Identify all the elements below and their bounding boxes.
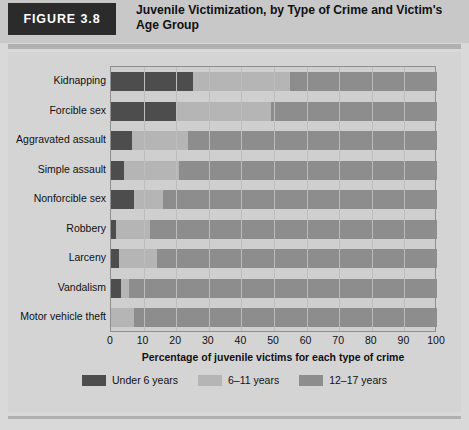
footer-divider bbox=[8, 416, 461, 419]
chart-legend: Under 6 years6–11 years12–17 years bbox=[8, 374, 461, 386]
legend-label: 6–11 years bbox=[228, 374, 279, 386]
gridline bbox=[274, 67, 275, 331]
bar-segment bbox=[134, 190, 163, 209]
gridline bbox=[307, 67, 308, 331]
y-axis-label: Larceny bbox=[10, 243, 106, 273]
legend-swatch bbox=[198, 375, 222, 386]
bar-segment bbox=[290, 72, 437, 91]
legend-label: 12–17 years bbox=[329, 374, 387, 386]
x-axis-tick-label: 10 bbox=[137, 334, 149, 346]
legend-label: Under 6 years bbox=[112, 374, 178, 386]
gridline bbox=[176, 67, 177, 331]
bar-segment bbox=[150, 220, 437, 239]
y-axis-label: Forcible sex bbox=[10, 96, 106, 126]
bar-segment bbox=[157, 249, 437, 268]
x-axis-tick-label: 70 bbox=[332, 334, 344, 346]
header-divider bbox=[8, 44, 461, 49]
y-axis-labels: KidnappingForcible sexAggravated assault… bbox=[8, 66, 106, 332]
y-axis-label: Nonforcible sex bbox=[10, 184, 106, 214]
bar-segment bbox=[129, 279, 437, 298]
y-axis-label: Robbery bbox=[10, 214, 106, 244]
legend-swatch bbox=[299, 375, 323, 386]
legend-item: 12–17 years bbox=[299, 374, 387, 386]
gridline bbox=[241, 67, 242, 331]
gridline bbox=[144, 67, 145, 331]
x-axis-tick-label: 50 bbox=[267, 334, 279, 346]
y-axis-label: Kidnapping bbox=[10, 66, 106, 96]
bar-segment bbox=[119, 249, 156, 268]
gridline bbox=[404, 67, 405, 331]
bar-segment bbox=[111, 72, 193, 91]
bar-segment bbox=[176, 102, 271, 121]
x-axis-tick-label: 80 bbox=[365, 334, 377, 346]
legend-item: Under 6 years bbox=[82, 374, 178, 386]
plot-area bbox=[110, 66, 436, 332]
x-axis-tick-label: 40 bbox=[235, 334, 247, 346]
bar-segment bbox=[111, 249, 119, 268]
bar-segment bbox=[132, 131, 187, 150]
x-axis-title: Percentage of juvenile victims for each … bbox=[110, 351, 436, 363]
bar-segment bbox=[111, 190, 134, 209]
x-axis-tick-label: 100 bbox=[427, 334, 445, 346]
bar-segment bbox=[116, 220, 150, 239]
figure-header: FIGURE 3.8 Juvenile Victimization, by Ty… bbox=[0, 0, 469, 43]
x-axis-ticks: 0102030405060708090100 bbox=[110, 334, 436, 350]
gridline bbox=[339, 67, 340, 331]
legend-swatch bbox=[82, 375, 106, 386]
bar-segment bbox=[121, 279, 129, 298]
y-axis-label: Simple assault bbox=[10, 155, 106, 185]
x-axis-tick-label: 20 bbox=[169, 334, 181, 346]
gridline bbox=[372, 67, 373, 331]
bar-segment bbox=[134, 308, 437, 327]
chart-container: KidnappingForcible sexAggravated assault… bbox=[8, 52, 461, 412]
bar-segment bbox=[188, 131, 437, 150]
bar-segment bbox=[111, 279, 121, 298]
bar-segment bbox=[271, 102, 437, 121]
bar-segment bbox=[111, 131, 132, 150]
bar-segment bbox=[179, 161, 437, 180]
bar-segment bbox=[163, 190, 437, 209]
bar-segment bbox=[111, 308, 134, 327]
figure-number-badge: FIGURE 3.8 bbox=[8, 3, 116, 35]
bar-segment bbox=[124, 161, 179, 180]
x-axis-tick-label: 30 bbox=[202, 334, 214, 346]
y-axis-label: Aggravated assault bbox=[10, 125, 106, 155]
x-axis-tick-label: 0 bbox=[107, 334, 113, 346]
x-axis-tick-label: 90 bbox=[398, 334, 410, 346]
figure-title: Juvenile Victimization, by Type of Crime… bbox=[136, 3, 456, 33]
y-axis-label: Vandalism bbox=[10, 273, 106, 303]
bar-segment bbox=[111, 161, 124, 180]
gridline bbox=[209, 67, 210, 331]
x-axis-tick-label: 60 bbox=[300, 334, 312, 346]
legend-item: 6–11 years bbox=[198, 374, 279, 386]
y-axis-label: Motor vehicle theft bbox=[10, 302, 106, 332]
